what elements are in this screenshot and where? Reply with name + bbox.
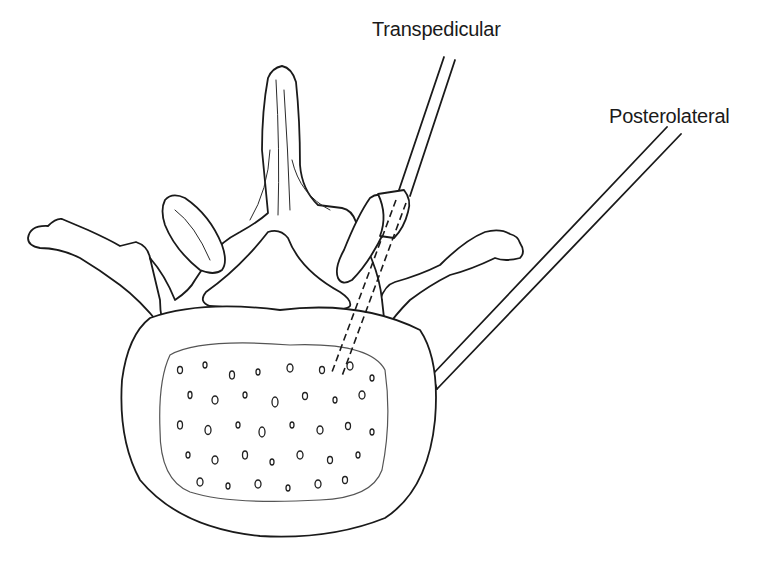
vertebra-illustration [0, 0, 775, 563]
left-transverse-process [28, 219, 170, 325]
label-transpedicular: Transpedicular [372, 18, 501, 41]
cancellous-bone [160, 343, 388, 501]
transpedicular-needle [398, 57, 455, 196]
pedicle-entry [378, 190, 409, 238]
vertebra-diagram: Transpedicular Posterolateral [0, 0, 775, 563]
left-facet [163, 195, 226, 273]
label-posterolateral: Posterolateral [609, 105, 730, 128]
right-transverse-process [380, 230, 523, 330]
